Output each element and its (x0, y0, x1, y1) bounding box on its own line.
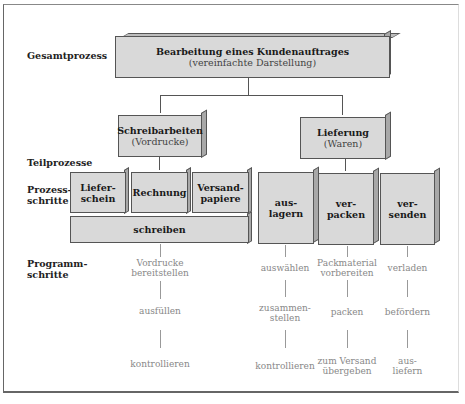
connector-line (345, 159, 346, 171)
step-connector (285, 280, 286, 297)
prozessschritt-box-verpacken: ver- packen (318, 173, 374, 245)
programmschritt: aus- liefern (375, 356, 440, 376)
row-label-programmschritte: Programm- schritte (27, 258, 87, 280)
prozessschritt-label: senden (389, 209, 427, 220)
programmschritt: ausfüllen (115, 306, 205, 316)
teilprozess-subtitle: (Vordrucke) (131, 136, 188, 147)
programmschritt-line: Vordrucke (115, 258, 205, 268)
prozessschritt-box-versenden: ver- senden (380, 173, 435, 245)
prozessschritt-label: Rechnung (133, 187, 187, 198)
programmschritt: verladen (375, 263, 440, 273)
connector-line (160, 95, 161, 113)
prozessschritt-label: schein (81, 193, 116, 204)
prozessschritt-box-rechnung: Rechnung (131, 172, 188, 213)
row-label-line: schritte (27, 269, 87, 280)
teilprozess-subtitle: (Waren) (324, 138, 362, 149)
row-label-line: Prozess- (27, 184, 72, 195)
prozessschritt-label: Versand- (197, 182, 244, 193)
programmschritt-line: aus- (375, 356, 440, 366)
connector-line (248, 78, 249, 95)
step-connector (285, 330, 286, 348)
programmschritt-line: zum Versand (310, 356, 384, 366)
programmschritt: befördern (375, 307, 440, 317)
prozessschritt-label: ver- (397, 198, 418, 209)
gesamtprozess-title: Bearbeitung eines Kundenauftrages (156, 46, 349, 57)
step-connector (407, 246, 408, 257)
teilprozess-title: Schreibarbeiten (117, 125, 203, 136)
programmschritt: kontrollieren (115, 359, 205, 369)
programmschritt-line: kontrollieren (115, 359, 205, 369)
schreiben-label: schreiben (133, 224, 185, 235)
programmschritt: Packmaterial vorbereiten (310, 258, 384, 278)
prozessschritt-label: papiere (200, 193, 240, 204)
schreiben-box: schreiben (70, 216, 249, 243)
programmschritt-line: vorbereiten (310, 268, 384, 278)
programmschritt: zum Versand übergeben (310, 356, 384, 376)
teilprozess-title: Lieferung (317, 127, 369, 138)
programmschritt: packen (310, 307, 384, 317)
prozessschritt-label: lagern (269, 208, 303, 219)
step-connector (347, 280, 348, 297)
teilprozess-box-lieferung: Lieferung (Waren) (300, 117, 386, 159)
step-connector (160, 330, 161, 348)
programmschritt-line: übergeben (310, 366, 384, 376)
step-connector (407, 280, 408, 297)
step-connector (347, 330, 348, 348)
prozessschritt-box-lieferschein: Liefer- schein (70, 172, 126, 213)
prozessschritt-label: packen (327, 209, 365, 220)
programmschritt-line: befördern (375, 307, 440, 317)
prozessschritt-box-versandpapiere: Versand- papiere (192, 172, 249, 213)
programmschritt-line: verladen (375, 263, 440, 273)
step-connector (407, 330, 408, 348)
teilprozess-box-schreibarbeiten: Schreibarbeiten (Vordrucke) (118, 115, 202, 157)
programmschritt-line: Packmaterial (310, 258, 384, 268)
programmschritt-line: bereitstellen (115, 268, 205, 278)
row-label-teilprozesse: Teilprozesse (27, 157, 92, 168)
programmschritt-line: packen (310, 307, 384, 317)
connector-line (342, 95, 343, 115)
step-connector (285, 245, 286, 257)
row-label-gesamtprozess: Gesamtprozess (27, 50, 107, 61)
gesamtprozess-box: Bearbeitung eines Kundenauftrages (verei… (115, 36, 390, 78)
connector-line (160, 95, 343, 96)
programmschritt: Vordrucke bereitstellen (115, 258, 205, 278)
prozessschritt-label: Liefer- (80, 182, 115, 193)
gesamtprozess-subtitle: (vereinfachte Darstellung) (189, 57, 316, 68)
programmschritt-line: ausfüllen (115, 306, 205, 316)
step-connector (347, 246, 348, 257)
programmschritt-line: liefern (375, 366, 440, 376)
row-label-prozessschritte: Prozess- schritte (27, 184, 72, 206)
prozessschritt-label: aus- (275, 197, 297, 208)
step-connector (160, 281, 161, 299)
prozessschritt-label: ver- (336, 198, 357, 209)
step-connector (160, 244, 161, 257)
prozessschritt-box-auslagern: aus- lagern (258, 172, 314, 244)
row-label-line: schritte (27, 195, 72, 206)
connector-line (159, 157, 160, 170)
row-label-line: Programm- (27, 258, 87, 269)
